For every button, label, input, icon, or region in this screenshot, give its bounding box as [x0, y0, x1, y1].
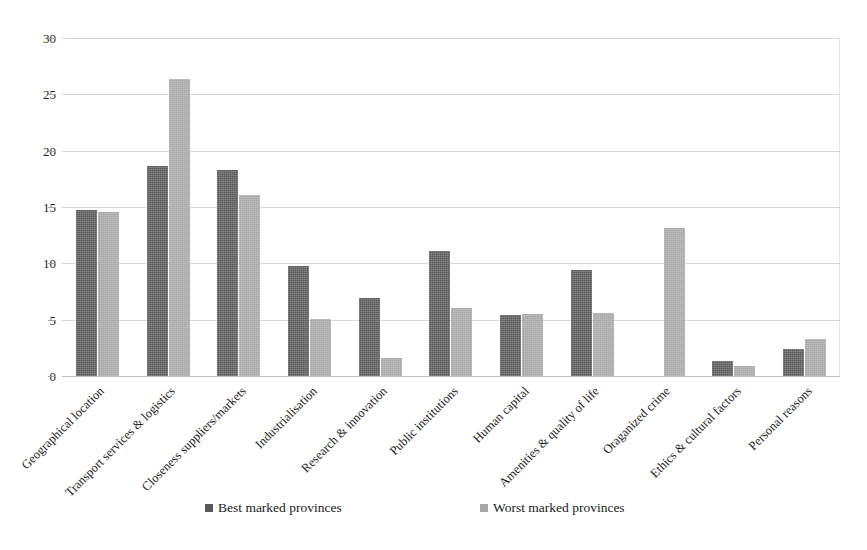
legend-item[interactable]: Worst marked provinces [480, 500, 625, 516]
bar-worst [169, 79, 190, 376]
y-axis-tick-mark [48, 94, 56, 95]
bar-chart: 051015202530 Geographical locationTransp… [0, 0, 867, 550]
bar-worst [310, 319, 331, 376]
plot-area [62, 38, 840, 376]
bar-best [783, 349, 804, 376]
y-axis-tick-mark [48, 263, 56, 264]
bar-worst [734, 366, 755, 376]
bar-best [500, 315, 521, 376]
bar-best [288, 266, 309, 376]
bar-best [712, 361, 733, 376]
bar-worst [239, 195, 260, 376]
y-axis-tick-mark [48, 151, 56, 152]
bar-best [429, 251, 450, 376]
bar-best [571, 270, 592, 376]
x-axis-label-text: Oraganized crime [600, 384, 673, 457]
bar-worst [381, 358, 402, 376]
bar-best [147, 166, 168, 376]
x-axis-label-text: Personal reasons [745, 384, 814, 453]
x-axis-label-text: Industrialisation [252, 384, 319, 451]
bar-group [203, 38, 274, 376]
bar-group [769, 38, 840, 376]
y-axis-tick-mark [48, 207, 56, 208]
bar-group [62, 38, 133, 376]
chart-legend: Best marked provincesWorst marked provin… [0, 500, 867, 526]
bar-group [416, 38, 487, 376]
bar-group [345, 38, 416, 376]
bar-worst [805, 339, 826, 376]
y-axis-tick-mark [48, 38, 56, 39]
bar-best [76, 210, 97, 376]
legend-swatch-icon [205, 504, 213, 512]
bar-worst [664, 228, 685, 376]
legend-item[interactable]: Best marked provinces [205, 500, 342, 516]
bar-group [557, 38, 628, 376]
x-axis-label-text: Public institutions [387, 384, 461, 458]
bar-group [628, 38, 699, 376]
bar-worst [593, 313, 614, 376]
bar-group [274, 38, 345, 376]
legend-label: Worst marked provinces [493, 500, 625, 516]
bar-best [217, 170, 238, 376]
bar-worst [451, 308, 472, 376]
bar-group [699, 38, 770, 376]
bar-worst [522, 314, 543, 376]
bar-group [486, 38, 557, 376]
legend-label: Best marked provinces [218, 500, 342, 516]
bar-worst [98, 212, 119, 376]
x-axis-category-labels: Geographical locationTransport services … [0, 376, 867, 496]
y-axis: 051015202530 [0, 38, 56, 376]
legend-swatch-icon [480, 504, 488, 512]
bar-best [359, 298, 380, 376]
x-axis-label-text: Human capital [470, 384, 532, 446]
bar-group [133, 38, 204, 376]
y-axis-tick-mark [48, 320, 56, 321]
